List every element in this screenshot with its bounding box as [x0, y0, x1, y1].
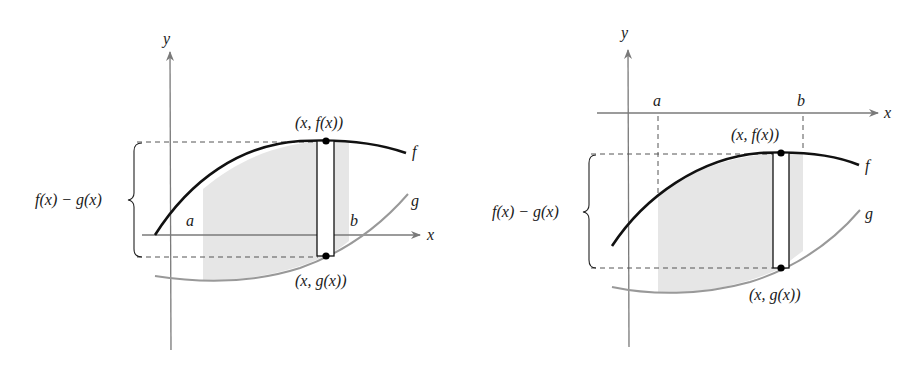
right-label-f: f — [865, 157, 872, 175]
right-label-a: a — [653, 92, 661, 109]
left-x-axis-label: x — [426, 226, 434, 243]
left-representative-rectangle — [317, 141, 334, 256]
left-y-axis — [170, 52, 171, 350]
area-between-curves-figure: y x a b f g (x, f(x)) (x, g(x)) f(x) − g… — [0, 0, 911, 367]
right-y-axis-label: y — [619, 24, 629, 42]
right-y-axis — [628, 50, 629, 347]
left-label-b: b — [350, 212, 358, 229]
right-height-label: f(x) − g(x) — [492, 203, 559, 221]
left-label-f: f — [412, 143, 419, 161]
left-height-label: f(x) − g(x) — [35, 191, 102, 209]
right-panel: y x a b f g (x, f(x)) (x, g(x)) f(x) − g… — [492, 24, 891, 347]
right-representative-rectangle — [773, 153, 789, 268]
left-label-g: g — [411, 192, 419, 210]
right-point-g — [777, 264, 784, 271]
left-point-f — [322, 137, 329, 144]
left-label-a: a — [186, 212, 194, 229]
right-label-g: g — [865, 205, 873, 223]
left-brace-icon — [128, 143, 142, 257]
right-x-axis-label: x — [883, 104, 891, 121]
right-brace-icon — [583, 155, 596, 268]
right-point-g-label: (x, g(x)) — [749, 286, 801, 304]
left-panel: y x a b f g (x, f(x)) (x, g(x)) f(x) − g… — [35, 30, 434, 350]
right-label-b: b — [797, 92, 805, 109]
right-point-f — [777, 149, 784, 156]
right-point-f-label: (x, f(x)) — [731, 126, 779, 144]
left-point-g-label: (x, g(x)) — [295, 272, 347, 290]
left-point-g — [322, 252, 329, 259]
left-point-f-label: (x, f(x)) — [295, 114, 343, 132]
left-y-axis-label: y — [161, 30, 171, 48]
